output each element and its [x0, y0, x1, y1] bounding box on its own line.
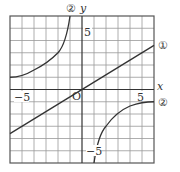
tick-label-x-neg5: −5	[14, 92, 30, 103]
hyperbola-2-lower-right	[94, 102, 154, 163]
curve-label-2-right: ②	[158, 97, 168, 108]
hyperbola-2-upper-left	[10, 16, 70, 77]
origin-label: O	[72, 91, 81, 102]
y-axis-label: y	[80, 3, 86, 14]
curve-label-1: ①	[158, 40, 168, 51]
tick-label-y-neg5: −5	[86, 146, 102, 157]
x-axis-label: x	[157, 81, 163, 92]
curve-label-2-top: ②	[66, 3, 76, 14]
tick-label-y-5: 5	[84, 27, 91, 38]
tick-label-x-5: 5	[137, 92, 144, 103]
